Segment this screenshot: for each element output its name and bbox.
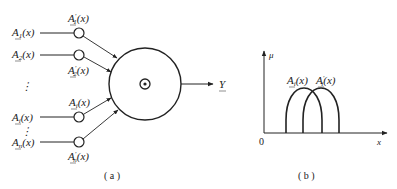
svg-text:A2(x): A2(x) [11, 48, 35, 62]
figure-b: μ x 0 Ai(x) A′i(x) ( b ) [259, 50, 387, 182]
weight-label-n: A′n(x) [67, 150, 89, 164]
svg-text:An(x): An(x) [11, 136, 35, 150]
svg-text:A′n(x): A′n(x) [67, 150, 89, 164]
svg-text:Ai(x): Ai(x) [68, 96, 90, 110]
input-label-1: A1(x) [11, 26, 35, 40]
svg-text:Ai(x): Ai(x) [11, 111, 33, 125]
y-axis-label: μ [268, 50, 274, 60]
weight-node-2 [74, 50, 84, 60]
arrow-n [83, 110, 118, 139]
ellipsis-upper: ⋮ [21, 80, 32, 92]
curve-label-ai: Ai(x) [286, 74, 308, 88]
curve-label-ai-prime: A′i(x) [315, 74, 336, 88]
weight-label-2: A′2(x) [67, 64, 89, 78]
svg-text:Ai(x): Ai(x) [286, 74, 308, 88]
weight-node-n [74, 137, 84, 147]
weight-node-i [74, 112, 84, 122]
origin-label: 0 [259, 136, 264, 147]
caption-b: ( b ) [298, 170, 315, 182]
svg-text:A′1(x): A′1(x) [67, 12, 89, 26]
weight-label-i: Ai(x) [68, 96, 90, 110]
fuzzy-neuron-figure: A1(x) A2(x) ⋮ Ai(x) ⋮ An(x) A′1(x) [0, 0, 397, 189]
figure-a: A1(x) A2(x) ⋮ Ai(x) ⋮ An(x) A′1(x) [11, 12, 227, 182]
svg-text:A′2(x): A′2(x) [67, 64, 89, 78]
input-label-2: A2(x) [11, 48, 35, 62]
svg-text:A1(x): A1(x) [11, 26, 35, 40]
output-label: Y [219, 78, 227, 91]
arrow-1 [83, 36, 117, 58]
input-label-i: Ai(x) [11, 111, 33, 125]
input-label-n: An(x) [11, 136, 35, 150]
caption-a: ( a ) [104, 170, 120, 182]
svg-text:A′i(x): A′i(x) [315, 74, 336, 88]
weight-node-1 [74, 28, 84, 38]
x-axis-label: x [376, 137, 381, 147]
weight-label-1: A′1(x) [67, 12, 89, 26]
svg-text:Y: Y [219, 78, 227, 90]
